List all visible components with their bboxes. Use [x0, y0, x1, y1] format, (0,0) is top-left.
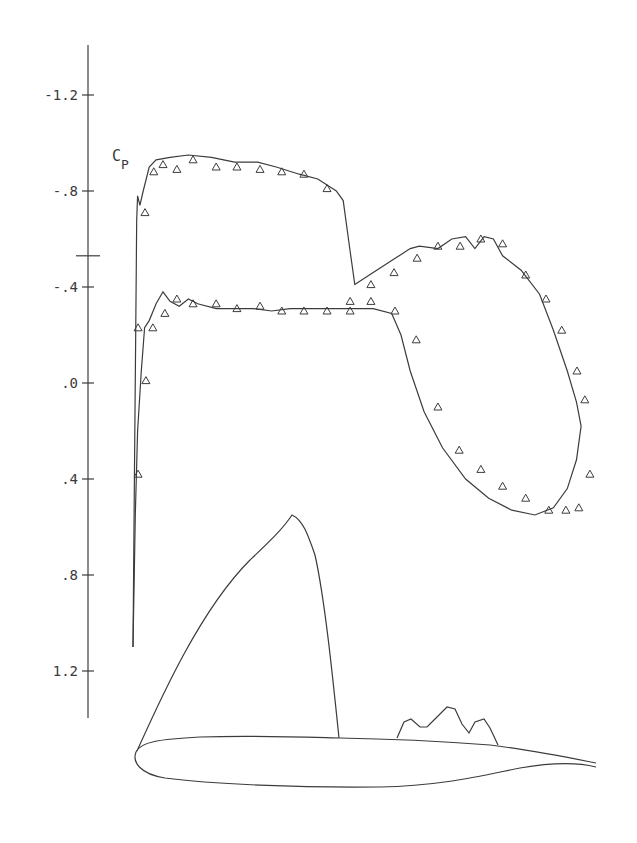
computed-cp-line — [133, 292, 581, 647]
airfoil-upper-surface — [136, 736, 596, 763]
experiment-triangle-marker — [367, 297, 375, 304]
experiment-triangle-marker — [233, 163, 241, 170]
experiment-triangle-marker — [159, 161, 167, 168]
experiment-triangle-marker — [212, 163, 220, 170]
computed-cp-line — [133, 155, 581, 647]
experiment-triangle-marker — [499, 240, 507, 247]
experiment-triangle-marker — [573, 367, 581, 374]
experiment-triangle-marker — [499, 482, 507, 489]
experiment-triangle-marker — [173, 295, 181, 302]
y-axis-title: CP — [112, 147, 129, 172]
y-tick-label: -.4 — [53, 279, 78, 295]
sonic-pocket-aft — [397, 707, 498, 745]
experiment-triangle-marker — [562, 506, 570, 513]
experiment-triangle-marker — [141, 209, 149, 216]
experiment-triangle-marker — [455, 446, 463, 453]
experiment-triangle-marker — [581, 396, 589, 403]
y-tick-label: .0 — [61, 375, 78, 391]
experiment-triangle-marker — [256, 302, 264, 309]
experiment-triangle-marker — [134, 470, 142, 477]
experiment-triangle-marker — [477, 465, 485, 472]
experiment-triangle-marker — [542, 295, 550, 302]
y-tick-label: .4 — [61, 471, 78, 487]
experiment-triangle-marker — [161, 309, 169, 316]
y-axis: -1.2-.8-.4.0.4.81.2 — [44, 45, 100, 718]
y-tick-label: -1.2 — [44, 87, 78, 103]
experiment-triangle-marker — [413, 254, 421, 261]
experiment-triangle-marker — [212, 300, 220, 307]
experiment-triangle-marker — [434, 403, 442, 410]
y-tick-label: .8 — [61, 567, 78, 583]
experiment-triangle-marker — [173, 165, 181, 172]
pressure-distribution-chart: -1.2-.8-.4.0.4.81.2 CP — [0, 0, 637, 843]
y-tick-label: -.8 — [53, 183, 78, 199]
experiment-triangle-marker — [189, 156, 197, 163]
experiment-triangle-marker — [456, 242, 464, 249]
experiment-triangle-marker — [412, 336, 420, 343]
experiment-triangle-marker — [522, 494, 530, 501]
experiment-triangle-marker — [150, 168, 158, 175]
experiment-triangle-marker — [390, 269, 398, 276]
experiment-triangle-marker — [149, 324, 157, 331]
experiment-triangle-marker — [575, 504, 583, 511]
experiment-triangle-marker — [367, 281, 375, 288]
y-tick-label: 1.2 — [53, 663, 78, 679]
experiment-triangle-marker — [256, 165, 264, 172]
experiment-triangle-marker — [558, 326, 566, 333]
series-layer — [133, 155, 594, 647]
sonic-bubble-main — [137, 515, 339, 751]
experiment-triangle-marker — [346, 297, 354, 304]
airfoil-diagram — [135, 515, 596, 787]
experiment-triangle-marker — [142, 377, 150, 384]
airfoil-lower-surface — [135, 752, 596, 787]
experiment-triangle-marker — [586, 470, 594, 477]
